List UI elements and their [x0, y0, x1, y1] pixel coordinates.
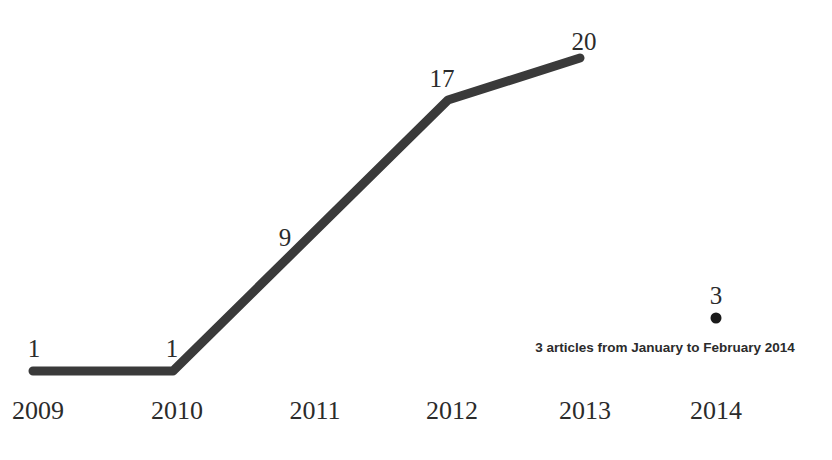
- x-tick-2010: 2010: [151, 398, 203, 424]
- data-label-2013: 20: [572, 29, 597, 54]
- plot-area: [0, 0, 832, 460]
- x-tick-2013: 2013: [559, 398, 611, 424]
- line-chart: 1 1 9 17 20 3 3 articles from January to…: [0, 0, 832, 460]
- partial-year-note: 3 articles from January to February 2014: [535, 341, 795, 355]
- x-tick-2011: 2011: [289, 398, 340, 424]
- data-label-2014: 3: [710, 283, 723, 308]
- data-label-2009: 1: [28, 336, 41, 361]
- data-label-2011: 9: [279, 225, 292, 250]
- data-label-2010: 1: [166, 336, 179, 361]
- article-count-line: [33, 58, 580, 371]
- x-tick-2012: 2012: [426, 398, 478, 424]
- data-label-2012: 17: [430, 66, 455, 91]
- partial-year-marker: [711, 313, 722, 324]
- x-tick-2014: 2014: [690, 398, 742, 424]
- x-tick-2009: 2009: [12, 398, 64, 424]
